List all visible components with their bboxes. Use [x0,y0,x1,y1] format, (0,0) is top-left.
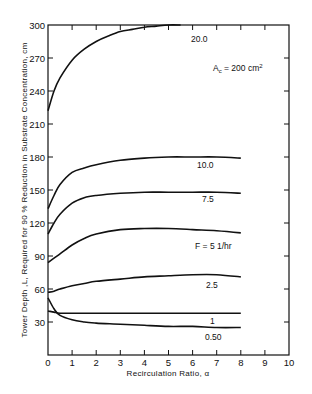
curve-label-10: 10.0 [197,160,214,170]
y-tick-label: 240 [29,86,45,97]
chart: 012345678910306090120150180210240270300 … [0,0,312,394]
y-tick-label: 60 [34,284,45,295]
curve-label-7-5: 7.5 [202,194,214,204]
x-tick-label: 5 [166,357,171,368]
y-tick-label: 90 [34,251,45,262]
x-tick-label: 9 [262,357,267,368]
y-tick-label: 270 [29,53,45,64]
y-tick-label: 210 [29,119,45,130]
curve-label-2-5: 2.5 [206,280,218,290]
y-tick-label: 180 [29,152,45,163]
x-tick-label: 8 [238,357,243,368]
curve-label-5: F = 5 1/hr [195,241,232,251]
plot-frame [48,25,289,355]
x-tick-label: 7 [214,357,219,368]
y-tick-label: 30 [34,317,45,328]
area-annotation: Ac = 200 cm2 [213,63,263,74]
y-tick-label: 120 [29,218,45,229]
x-tick-label: 1 [69,357,74,368]
x-tick-label: 2 [94,357,99,368]
curve-label-1: 1 [210,316,215,326]
x-tick-label: 0 [45,357,50,368]
x-tick-label: 3 [118,357,123,368]
y-axis-title: Tower Depth ,L, Required for 90 % Reduct… [20,42,29,337]
curve-label-0-5: 0.50 [205,332,222,342]
x-tick-label: 10 [284,357,295,368]
y-tick-label: 300 [29,20,45,31]
x-tick-label: 6 [190,357,195,368]
curve-20-0 [48,25,181,111]
curve-1 [48,311,241,313]
x-tick-label: 4 [142,357,147,368]
y-tick-label: 150 [29,185,45,196]
curve-label-20: 20.0 [191,34,208,44]
x-axis-title: Recirculation Ratio, α [127,369,210,378]
plot-border [48,25,289,355]
